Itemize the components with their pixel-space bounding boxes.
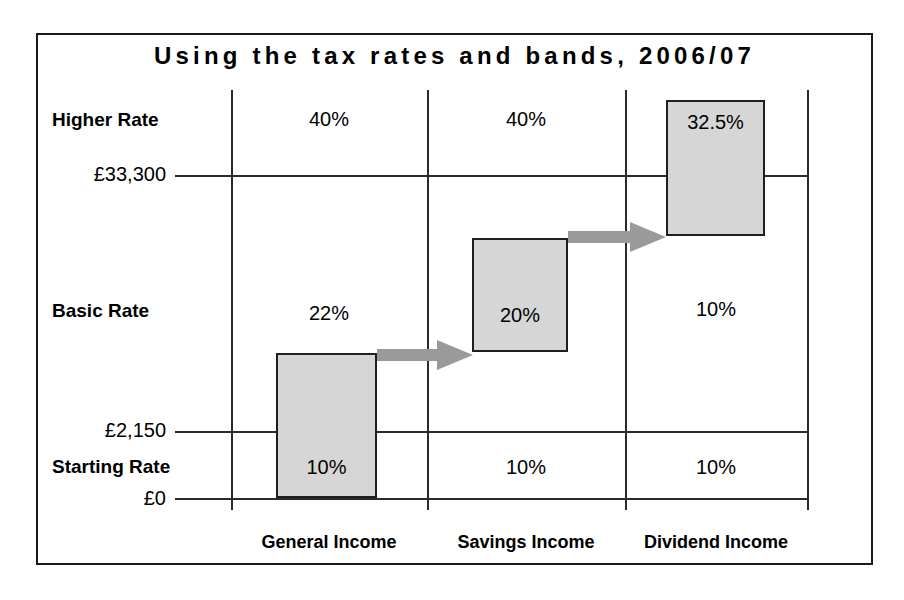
diagram-title: Using the tax rates and bands, 2006/07 [36,42,873,70]
highlight-box-general-income: 10% [276,353,377,498]
threshold-line-2150 [175,431,807,433]
axis-label-0: £0 [40,487,166,510]
cell-general-basic: 22% [231,302,427,325]
tax-bands-diagram: Using the tax rates and bands, 2006/07 £… [0,0,904,600]
cell-savings-starting: 10% [427,456,625,479]
highlight-box-savings-income-label: 20% [474,304,566,327]
highlight-box-general-income-label: 10% [278,456,375,479]
band-label-basic-rate: Basic Rate [52,300,149,322]
axis-label-2150: £2,150 [40,419,166,442]
column-header-dividend-income: Dividend Income [625,532,807,553]
band-label-higher-rate: Higher Rate [52,109,159,131]
cell-general-higher: 40% [231,108,427,131]
highlight-box-dividend-income-label: 32.5% [668,111,763,134]
column-divider-1 [231,90,233,510]
column-header-general-income: General Income [231,532,427,553]
cell-savings-higher: 40% [427,108,625,131]
flow-arrow-general-to-savings [377,337,477,373]
highlight-box-savings-income: 20% [472,238,568,352]
band-label-starting-rate: Starting Rate [52,456,170,478]
axis-label-33300: £33,300 [40,163,166,186]
cell-dividend-starting: 10% [625,456,807,479]
column-divider-4 [807,90,809,510]
column-header-savings-income: Savings Income [427,532,625,553]
cell-dividend-basic: 10% [625,298,807,321]
highlight-box-dividend-income: 32.5% [666,100,765,236]
column-divider-2 [427,90,429,510]
threshold-line-0 [175,498,807,500]
flow-arrow-savings-to-dividend [568,219,670,255]
